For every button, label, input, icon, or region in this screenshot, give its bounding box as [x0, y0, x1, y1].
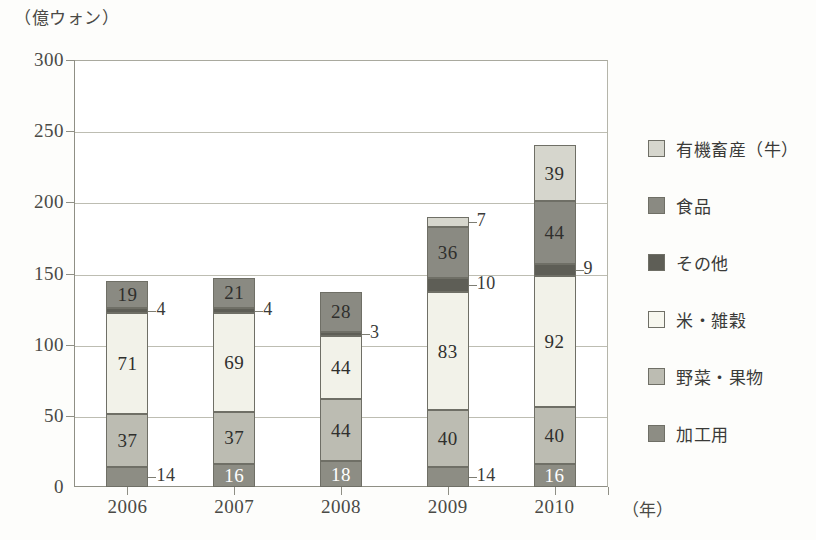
legend-swatch-icon	[648, 311, 665, 328]
bar-segment-label: 9	[584, 258, 594, 279]
bar-segment[interactable]: 71	[106, 313, 148, 414]
bar-segment[interactable]: 69	[213, 313, 255, 411]
bar-segment[interactable]: 37	[106, 414, 148, 467]
bar-segment[interactable]	[427, 467, 469, 487]
bar-segment[interactable]: 40	[534, 407, 576, 464]
bar-segment[interactable]: 19	[106, 281, 148, 308]
label-leader-line	[148, 477, 156, 478]
chart-legend: 有機畜産（牛）食品その他米・雑穀野菜・果物加工用	[648, 120, 816, 462]
label-leader-line	[469, 222, 477, 223]
y-axis-tick-label: 200	[8, 191, 64, 213]
bar-segment[interactable]	[213, 308, 255, 314]
label-leader-line	[469, 285, 477, 286]
y-axis-tick-mark	[66, 345, 75, 346]
label-leader-line	[255, 311, 263, 312]
bar-segment[interactable]	[534, 264, 576, 277]
bar-segment[interactable]: 28	[320, 292, 362, 332]
label-leader-line	[362, 334, 370, 335]
x-axis-tick-mark	[234, 487, 235, 495]
bar-segment[interactable]	[106, 467, 148, 487]
x-axis-tick-label: 2007	[184, 496, 284, 518]
legend-item-label: 米・雑穀	[676, 307, 746, 332]
bar-group[interactable]: 1640924439	[534, 60, 576, 487]
legend-item-label: 有機畜産（牛）	[676, 136, 799, 161]
bar-segment[interactable]: 44	[534, 201, 576, 264]
x-axis-tick-label: 2006	[77, 496, 177, 518]
bar-segment[interactable]: 21	[213, 278, 255, 308]
stacked-bar-chart: （億ウォン） 050100150200250300 20062007200820…	[0, 0, 816, 540]
x-axis-tick-mark	[341, 487, 342, 495]
legend-item-label: 加工用	[676, 421, 729, 446]
bar-segment-label: 4	[263, 299, 273, 320]
legend-item[interactable]: 野菜・果物	[648, 348, 816, 405]
legend-item[interactable]: 食品	[648, 177, 816, 234]
bar-segment[interactable]: 18	[320, 461, 362, 487]
legend-item-label: 食品	[676, 193, 711, 218]
bar-segment[interactable]: 92	[534, 276, 576, 407]
bar-segment[interactable]	[106, 308, 148, 314]
bar-segment-label: 14	[477, 465, 496, 486]
bar-group[interactable]: 16376921	[213, 60, 255, 487]
legend-swatch-icon	[648, 425, 665, 442]
y-axis-unit-caption: （億ウォン）	[14, 4, 119, 29]
y-axis-tick-label: 300	[8, 49, 64, 71]
x-axis-tick-mark	[555, 487, 556, 495]
label-leader-line	[576, 270, 584, 271]
bar-segment[interactable]: 83	[427, 292, 469, 410]
y-axis-tick-label: 250	[8, 120, 64, 142]
bar-group[interactable]: 18444428	[320, 60, 362, 487]
x-axis-tick-mark	[127, 487, 128, 495]
x-axis-tick-label: 2008	[291, 496, 391, 518]
x-axis-end-tick-mark	[608, 487, 609, 495]
bar-segment[interactable]	[427, 217, 469, 227]
bar-segment[interactable]	[427, 278, 469, 292]
y-axis-tick-label: 100	[8, 334, 64, 356]
label-leader-line	[148, 311, 156, 312]
y-axis-tick-label: 50	[8, 405, 64, 427]
y-axis-tick-mark	[66, 274, 75, 275]
y-axis-tick-mark	[66, 202, 75, 203]
bar-segment-label: 14	[156, 465, 175, 486]
bar-segment[interactable]: 16	[213, 464, 255, 487]
x-axis-tick-label: 2010	[505, 496, 605, 518]
bar-segment[interactable]: 44	[320, 336, 362, 399]
legend-item[interactable]: その他	[648, 234, 816, 291]
legend-item-label: その他	[676, 250, 729, 275]
legend-item-label: 野菜・果物	[676, 364, 764, 389]
legend-item[interactable]: 有機畜産（牛）	[648, 120, 816, 177]
bar-segment[interactable]: 36	[427, 227, 469, 278]
bar-segment-label: 7	[477, 210, 487, 231]
x-axis-unit-caption: （年）	[622, 496, 673, 521]
bar-segment[interactable]: 39	[534, 145, 576, 201]
bar-segment-label: 4	[156, 299, 166, 320]
bar-segment[interactable]: 44	[320, 399, 362, 462]
x-axis-tick-mark	[448, 487, 449, 495]
y-axis-tick-label: 150	[8, 263, 64, 285]
bar-segment-label: 3	[370, 322, 380, 343]
y-axis-tick-mark	[66, 416, 75, 417]
y-axis-tick-mark	[66, 131, 75, 132]
legend-item[interactable]: 加工用	[648, 405, 816, 462]
bar-segment-label: 10	[477, 273, 496, 294]
legend-swatch-icon	[648, 197, 665, 214]
bar-segment[interactable]: 40	[427, 410, 469, 467]
y-axis-tick-mark	[66, 60, 75, 61]
bar-group[interactable]: 377119	[106, 60, 148, 487]
x-axis-tick-label: 2009	[398, 496, 498, 518]
bar-segment[interactable]: 37	[213, 412, 255, 465]
bar-group[interactable]: 408336	[427, 60, 469, 487]
bar-segment[interactable]: 16	[534, 464, 576, 487]
bar-segment[interactable]	[320, 332, 362, 336]
y-axis-tick-label: 0	[8, 476, 64, 498]
label-leader-line	[469, 477, 477, 478]
legend-swatch-icon	[648, 368, 665, 385]
legend-swatch-icon	[648, 140, 665, 157]
legend-swatch-icon	[648, 254, 665, 271]
legend-item[interactable]: 米・雑穀	[648, 291, 816, 348]
